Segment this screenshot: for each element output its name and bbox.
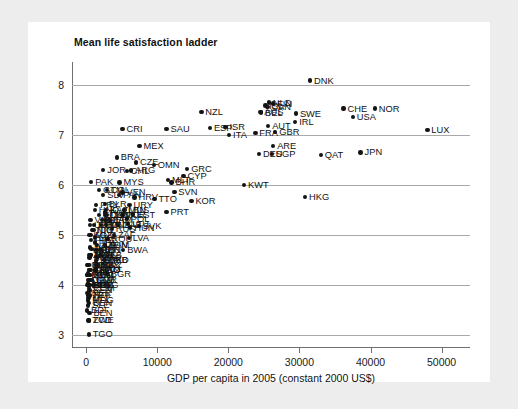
data-point [425,128,429,132]
data-point [103,213,107,217]
data-point-label: FRA [259,128,278,138]
data-point-label: AUS [264,107,283,117]
x-axis-tick-label: 30000 [285,356,314,368]
data-point [199,110,203,114]
data-point [86,318,90,322]
data-point [308,78,312,82]
data-point [87,293,91,297]
x-axis-tick [299,348,300,353]
x-axis-tick [371,348,372,353]
data-point [115,155,119,159]
data-point [258,110,262,114]
data-point [270,152,274,156]
x-axis-tick [442,348,443,353]
y-axis-tick-label: 3 [58,329,64,341]
data-point-label: LSO [93,265,112,275]
data-point-label: CRI [126,124,142,134]
data-point-label: BWA [127,245,148,255]
data-point-label: MRT [94,250,114,260]
data-point-label: SLV [107,190,124,200]
y-axis-tick-label: 7 [58,129,64,141]
y-axis-tick-label: 8 [58,79,64,91]
data-point-label: ZAF [118,230,136,240]
data-point-label: OMN [158,160,180,170]
data-point-label: TTO [158,194,176,204]
data-point [319,153,323,157]
x-axis-tick-label: 20000 [214,356,243,368]
chart-title: Mean life satisfaction ladder [74,36,218,48]
data-point-label: TGO [93,329,113,339]
data-point-label: KWT [248,180,269,190]
data-point-label: NOR [379,104,400,114]
data-point-label: SGP [276,149,296,159]
data-point-label: MEX [144,141,164,151]
data-point-label: USA [357,112,376,122]
x-axis-tick [86,348,87,353]
data-point-label: SAU [171,124,190,134]
data-point [85,308,89,312]
data-point [122,208,126,212]
y-axis-tick-label: 4 [58,279,64,291]
gridline [72,335,470,336]
x-axis-tick-label: 50000 [427,356,456,368]
data-point-label: KOR [195,196,215,206]
data-point [257,152,261,156]
data-point [134,160,138,164]
data-point-label: MLT [172,175,190,185]
data-point [358,150,362,154]
scatter-plot-area: 345678 01000020000300004000050000 DNKNOR… [72,62,470,348]
y-axis-tick-label: 5 [58,229,64,241]
data-point-label: MUS [129,205,150,215]
data-point [87,268,91,272]
data-point-label: GBR [279,127,299,137]
data-point-label: JOR [107,165,126,175]
data-point-label: PRT [171,207,189,217]
data-point-label: NZL [205,107,223,117]
chart-figure: Mean life satisfaction ladder 345678 010… [28,22,490,382]
data-point-label: GAB [122,220,142,230]
x-axis-tick [228,348,229,353]
data-point [117,180,121,184]
data-point [341,106,345,110]
data-point-label: ESP [214,123,233,133]
data-point [120,127,124,131]
data-point [164,210,168,214]
data-point [125,169,129,173]
data-point-label: JPN [365,147,383,157]
data-point-label: QAT [325,150,343,160]
data-point [253,131,257,135]
data-point-label: DNK [314,76,334,86]
data-point-label: CHL [131,166,150,176]
data-point-label: IRL [299,117,313,127]
x-axis-tick-label: 0 [83,356,89,368]
data-point-label: MNG [95,230,117,240]
x-axis-tick-label: 40000 [356,356,385,368]
data-point [152,163,156,167]
data-point-label: ITA [233,130,247,140]
x-axis-tick-label: 10000 [143,356,172,368]
data-point [208,126,212,130]
data-point-label: PAN [123,190,141,200]
data-point [87,332,91,336]
gridline [72,85,470,86]
x-axis-title: GDP per capita in 2005 (constant 2000 US… [167,372,375,384]
data-point [189,199,193,203]
data-point-label: LUX [431,125,449,135]
y-axis-tick-label: 6 [58,179,64,191]
data-point [373,106,377,110]
x-axis-tick [157,348,158,353]
gridline [72,285,470,286]
data-point [294,111,298,115]
data-point [88,218,92,222]
data-point [93,208,97,212]
data-point-label: BEN [93,298,112,308]
data-point [91,283,95,287]
data-point-label: HKG [309,192,329,202]
data-point-label: COG [97,280,118,290]
data-point [164,127,168,131]
